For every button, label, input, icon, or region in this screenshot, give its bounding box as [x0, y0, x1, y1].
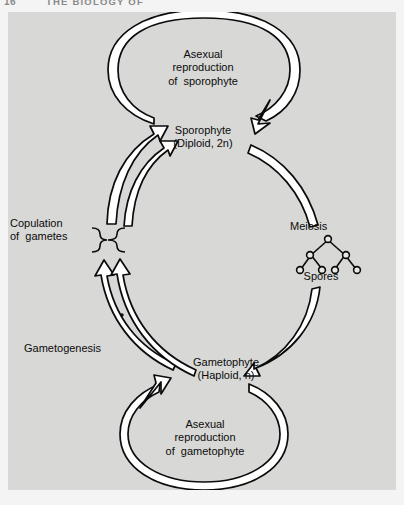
label-asexual-reproduction-sporophyte: Asexual reproduction of sporophyte	[108, 48, 298, 88]
meiosis-node-parent	[325, 236, 332, 243]
meiosis-node-l1a	[307, 252, 314, 259]
label-gametophyte: Gametophyte (Haploid, n)	[156, 356, 296, 383]
book-page: 16 THE BIOLOGY OF .ink{fill:#ffffff;stro…	[0, 0, 404, 505]
meiosis-arc	[248, 145, 318, 227]
meiosis-tree	[297, 236, 361, 274]
running-head-title: THE BIOLOGY OF	[46, 0, 144, 7]
figure-panel: .ink{fill:#ffffff;stroke:#0b0b0b;stroke-…	[8, 12, 396, 490]
label-spores: Spores	[282, 270, 360, 283]
label-copulation-of-gametes: Copulation of gametes	[10, 217, 126, 244]
running-head: 16 THE BIOLOGY OF	[0, 0, 404, 12]
asterisk-mark	[120, 313, 123, 316]
label-meiosis: Meiosis	[290, 220, 376, 233]
page-folio-number: 16	[4, 0, 16, 7]
label-sporophyte: Sporophyte (Diploid, 2n)	[112, 124, 294, 151]
label-gametogenesis: Gametogenesis	[24, 342, 144, 355]
meiosis-node-l1b	[343, 252, 350, 259]
label-asexual-reproduction-gametophyte: Asexual reproduction of gametophyte	[112, 418, 298, 458]
